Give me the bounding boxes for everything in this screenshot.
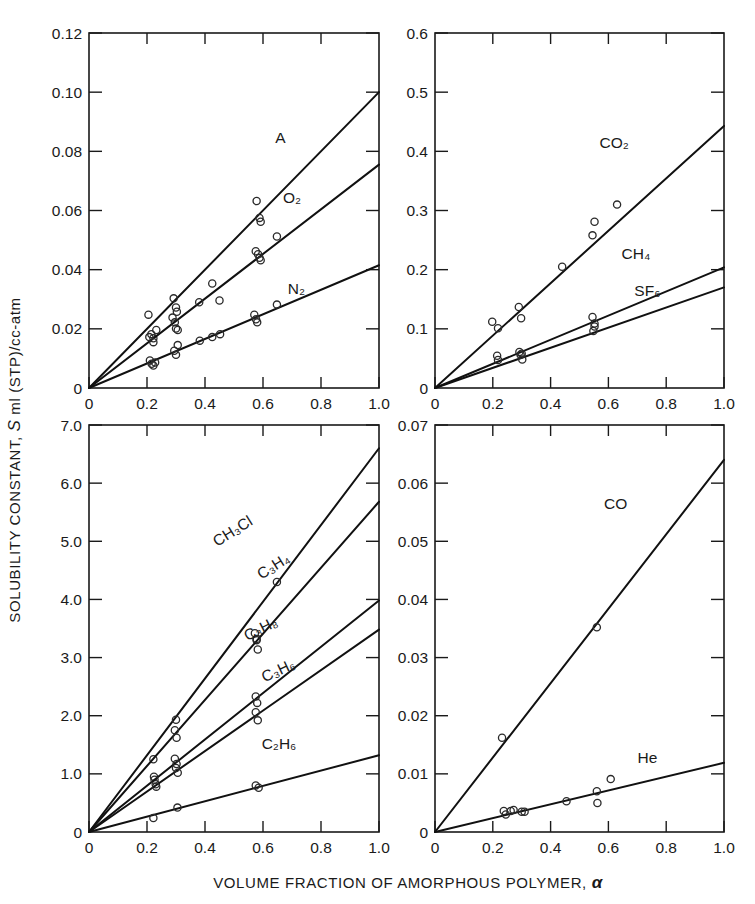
y-tick-label: 7.0 [60,417,82,434]
y-tick-label: 0.01 [398,765,428,782]
panel-bottom-right: 00.20.40.60.81.000.010.020.030.040.050.0… [398,417,735,857]
series-label-N2: N₂ [288,280,305,297]
data-point [254,717,261,724]
fit-line-O2 [89,165,379,388]
x-tick-label: 0.4 [194,395,216,412]
y-tick-label: 0.06 [398,475,428,492]
series-label-CH3Cl: CH₃Cl [210,512,256,549]
fit-line-N2 [89,265,379,388]
y-tick-label: 0.10 [52,84,83,101]
series-CO2: CO₂ [435,126,724,388]
series-label-He: He [637,749,657,766]
x-tick-label: 0.6 [598,395,620,412]
fit-line-He [435,763,724,832]
fit-line-A [89,92,379,388]
y-tick-label: 0 [73,824,82,841]
fit-line-CO [435,460,724,832]
x-tick-label: 0.6 [252,395,274,412]
y-tick-label: 0.4 [406,143,428,160]
panel-top-right: 00.20.40.60.81.000.10.20.30.40.50.6CO₂CH… [406,25,735,413]
y-tick-label: 0.02 [398,707,428,724]
x-tick-label: 1.0 [368,839,390,856]
x-tick-label: 0.4 [540,839,562,856]
y-tick-label: 0.06 [52,202,82,219]
data-point [216,297,223,304]
data-point [613,201,620,208]
data-point [145,311,152,318]
series-label-CO: CO [604,495,627,512]
y-tick-label: 5.0 [60,533,82,550]
x-tick-label: 0.8 [310,395,332,412]
x-tick-label: 0.4 [540,395,562,412]
series-N2: N₂ [89,265,379,388]
series-label-O2: O₂ [283,189,301,206]
data-point [589,232,596,239]
y-axis-title-text: SOLUBILITY CONSTANT, [6,431,23,622]
series-O2: O₂ [89,165,379,388]
x-tick-label: 0 [85,839,94,856]
data-point [254,646,261,653]
data-point [257,257,264,264]
y-tick-label: 0 [419,824,428,841]
y-axis-symbol-s: S [5,419,24,431]
fit-line-C3H6 [89,630,379,832]
x-tick-label: 0.8 [310,839,332,856]
fit-line-SF6 [435,287,724,388]
y-tick-label: 0.5 [406,84,428,101]
y-tick-label: 0.6 [406,25,428,42]
series-CH4: CH₄ [435,245,724,388]
series-C3H6: C₃H₆ [89,630,379,832]
x-tick-label: 0.4 [194,839,216,856]
series-label-CO2: CO₂ [600,134,629,151]
figure-container: 00.20.40.60.81.000.020.040.060.080.100.1… [0,0,755,904]
series-label-C3H4: C₃H₄ [254,549,293,582]
y-tick-label: 4.0 [60,591,82,608]
y-tick-label: 3.0 [60,649,82,666]
series-label-CH4: CH₄ [622,245,651,262]
x-axis-symbol-alpha: α [592,873,604,892]
y-tick-label: 0.1 [406,320,428,337]
series-label-A: A [275,129,286,146]
x-tick-label: 0.2 [482,395,504,412]
y-tick-label: 0.3 [406,202,428,219]
y-tick-label: 0.08 [52,143,82,160]
data-point [253,197,260,204]
fit-line-CH3Cl [89,448,379,832]
series-CO: CO [435,460,724,832]
x-tick-label: 0.2 [136,839,158,856]
data-point [594,799,601,806]
plot-frame [89,33,379,388]
data-point [518,315,525,322]
data-point [273,233,280,240]
y-tick-label: 6.0 [60,475,82,492]
y-tick-label: 0 [419,380,428,397]
series-He: He [435,749,724,832]
series-CH3Cl: CH₃Cl [89,448,379,832]
x-tick-label: 1.0 [713,839,735,856]
y-axis-units: ml (STP)/cc-atm [6,297,23,419]
plot-frame [89,425,379,832]
solubility-multi-panel-chart: 00.20.40.60.81.000.020.040.060.080.100.1… [0,0,755,904]
data-point [515,303,522,310]
x-tick-label: 0 [431,839,440,856]
plot-frame [435,425,724,832]
series-label-C2H6: C₂H₆ [262,735,297,752]
y-tick-label: 2.0 [60,707,82,724]
x-tick-label: 0.2 [482,839,504,856]
y-tick-label: 0.2 [406,261,428,278]
data-point [559,263,566,270]
data-point [591,218,598,225]
panel-top-left: 00.20.40.60.81.000.020.040.060.080.100.1… [52,25,390,413]
x-axis-title-text: VOLUME FRACTION OF AMORPHOUS POLYMER, [213,874,591,891]
data-point [174,342,181,349]
data-point [489,318,496,325]
data-point [173,734,180,741]
data-point [273,301,280,308]
fit-line-CH4 [435,267,724,388]
y-tick-label: 0.04 [398,591,429,608]
series-A: A [89,92,379,388]
data-point [209,280,216,287]
fit-line-C3H8 [89,601,379,832]
series-C3H4: C₃H₄ [89,502,379,832]
x-tick-label: 0.6 [252,839,274,856]
